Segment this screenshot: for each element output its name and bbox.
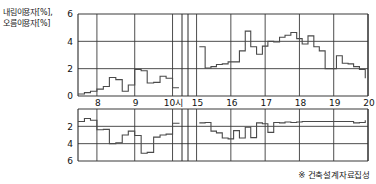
x-tick-17: 17 bbox=[260, 98, 271, 108]
series-up bbox=[78, 31, 365, 94]
y-tick-upper-0: 0 bbox=[67, 91, 73, 101]
x-tick-16: 16 bbox=[226, 98, 238, 108]
y-tick-lower-4: 4 bbox=[67, 139, 73, 149]
series-down bbox=[78, 119, 365, 154]
x-tick-20: 20 bbox=[363, 98, 375, 108]
y-tick-lower-2: 2 bbox=[67, 122, 73, 132]
y-tick-upper-4: 4 bbox=[67, 37, 73, 47]
y-tick-lower-6: 6 bbox=[67, 156, 73, 166]
y-tick-upper-2: 2 bbox=[67, 64, 73, 74]
x-tick-10시: 10시 bbox=[164, 98, 183, 108]
y-axis-label: 내림이용자[%], 오름이용자[%] bbox=[3, 7, 73, 29]
elevator-usage-chart: 내림이용자[%], 오름이용자[%] 02462468910시151617181… bbox=[0, 0, 376, 184]
y-axis-label-line-2: 오름이용자[%] bbox=[3, 18, 73, 29]
source-note: ※ 건축설계자료집성 bbox=[298, 168, 370, 180]
x-tick-18: 18 bbox=[295, 98, 307, 108]
y-axis-label-line-1: 내림이용자[%], bbox=[3, 7, 73, 18]
x-tick-9: 9 bbox=[133, 98, 139, 108]
x-tick-19: 19 bbox=[329, 98, 341, 108]
x-tick-15: 15 bbox=[192, 98, 203, 108]
x-tick-8: 8 bbox=[95, 98, 101, 108]
